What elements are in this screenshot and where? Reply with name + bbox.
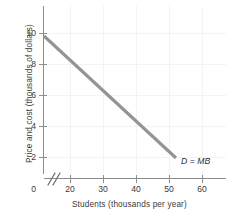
x-axis-title: Students (thousands per year) <box>72 200 187 209</box>
x-tick-label-40: 40 <box>131 184 141 194</box>
y-axis-title: Price and cost (thousands of dollars) <box>25 14 34 174</box>
x-tick-label-50: 50 <box>164 184 174 194</box>
x-tick-label-30: 30 <box>98 184 108 194</box>
x-tick-label-60: 60 <box>197 184 207 194</box>
gridlines <box>44 6 226 174</box>
x-tick-label-20: 20 <box>65 184 75 194</box>
y-tick-label-0: 0 <box>18 184 36 194</box>
demand-curve <box>44 36 176 158</box>
chart-figure: 10 8 6 4 2 0 20 30 40 50 60 D = MB Stude… <box>0 0 229 216</box>
demand-curve-label: D = MB <box>181 156 210 166</box>
